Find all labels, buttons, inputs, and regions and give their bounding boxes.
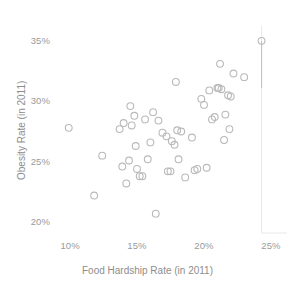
data-point	[175, 156, 182, 163]
y-axis-title: Obesity Rate (in 2011)	[16, 81, 27, 180]
data-point	[159, 129, 166, 136]
data-point	[144, 156, 151, 163]
data-point	[126, 157, 133, 164]
data-point	[172, 79, 179, 86]
data-point	[119, 163, 126, 170]
data-point	[189, 134, 196, 141]
x-axis-title: Food Hardship Rate (in 2011)	[0, 265, 295, 276]
y-tick-label: 35%	[20, 34, 50, 45]
data-point	[134, 166, 141, 173]
x-tick-label: 20%	[194, 240, 213, 251]
data-point	[201, 102, 208, 109]
data-point	[203, 164, 210, 171]
data-point	[230, 70, 237, 77]
x-tick-label: 25%	[261, 240, 280, 251]
data-point	[178, 128, 185, 135]
data-point	[116, 126, 123, 133]
data-point	[206, 87, 213, 94]
data-point	[221, 137, 228, 144]
data-point	[120, 120, 127, 127]
data-point	[142, 116, 149, 123]
data-point	[222, 111, 229, 118]
data-point	[217, 60, 224, 67]
data-point	[131, 112, 138, 119]
data-point	[132, 143, 139, 150]
axis-lines	[262, 26, 287, 233]
data-point	[99, 152, 106, 159]
data-point	[152, 210, 159, 217]
data-point	[128, 122, 135, 129]
scatter-plot-figure: 20%25%30%35% 10%15%20%25% Obesity Rate (…	[0, 0, 295, 281]
data-point	[65, 124, 72, 131]
data-point	[155, 117, 162, 124]
y-tick-label: 20%	[20, 215, 50, 226]
x-tick-label: 15%	[127, 240, 146, 251]
data-point	[123, 180, 130, 187]
data-points-layer	[65, 37, 265, 217]
data-point	[91, 192, 98, 199]
data-point	[182, 174, 189, 181]
data-point	[226, 126, 233, 133]
data-point	[147, 139, 154, 146]
data-point	[127, 103, 134, 110]
data-point	[241, 74, 248, 81]
x-tick-label: 10%	[60, 240, 79, 251]
data-point	[150, 109, 157, 116]
